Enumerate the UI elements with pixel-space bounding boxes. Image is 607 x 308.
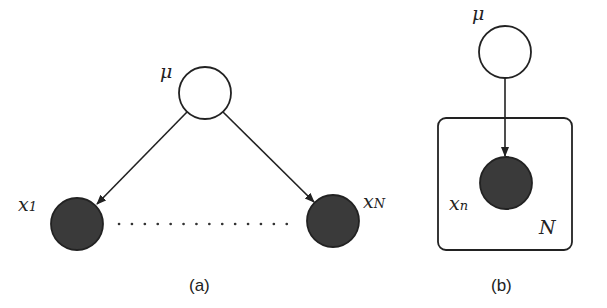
edge-mu-x1 [97, 112, 187, 204]
label-xN: xN [363, 190, 385, 212]
label-mu-b: μ [472, 2, 484, 24]
node-x1 [51, 198, 103, 250]
node-xN [307, 195, 359, 247]
caption-b: (b) [491, 276, 512, 296]
label-x1: x1 [18, 193, 37, 215]
caption-a: (a) [189, 276, 210, 296]
node-mu-a [179, 67, 231, 119]
plate-label-N: N [539, 216, 556, 238]
panel-a [51, 67, 359, 250]
graphical-model-diagram [0, 0, 607, 308]
label-xn: xn [449, 192, 468, 214]
node-xn [480, 157, 532, 209]
edge-mu-xN [223, 112, 314, 202]
node-mu-b [479, 26, 531, 78]
label-mu-a: μ [160, 60, 172, 82]
